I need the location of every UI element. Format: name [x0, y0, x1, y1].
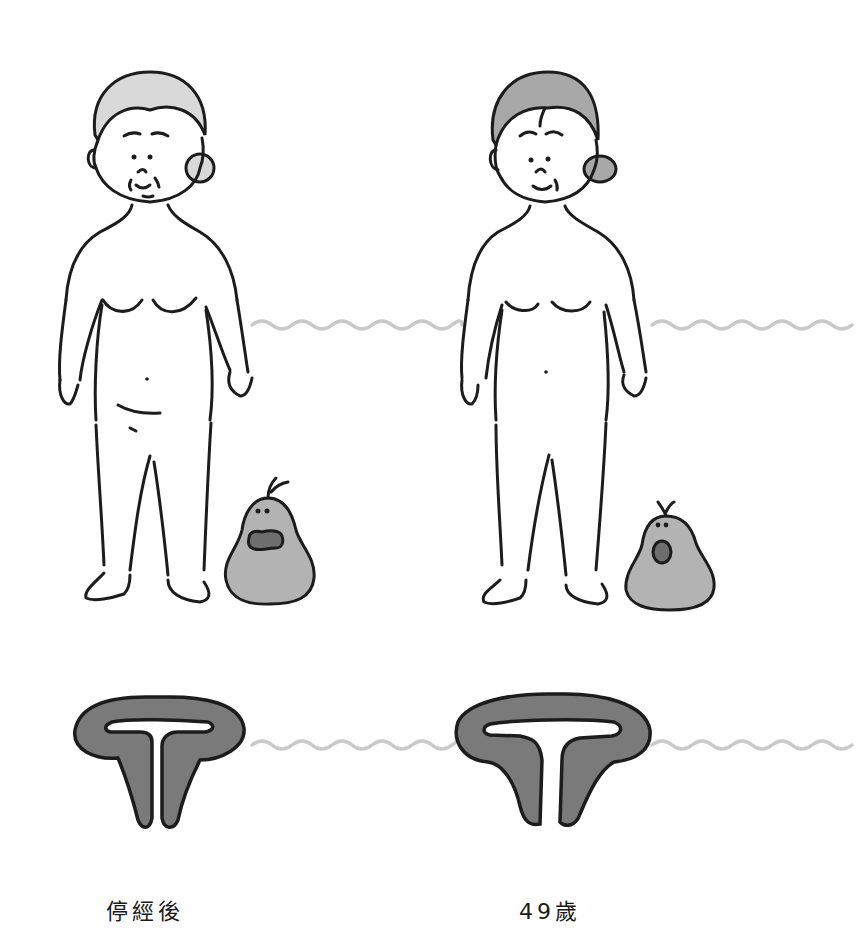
illustration-canvas [0, 0, 862, 930]
uterus-right [456, 694, 650, 825]
figure-right-woman [461, 72, 646, 604]
label-age-49: 49歲 [519, 893, 581, 925]
pear-body-icon [225, 498, 314, 604]
uterus-icon [456, 694, 650, 825]
figure-left-woman [59, 72, 252, 602]
wave-organ-right [652, 741, 852, 749]
wave-organ-middle [252, 741, 462, 749]
pear-character-left [225, 478, 314, 604]
uterus-left [75, 697, 244, 827]
wave-lines [252, 321, 852, 749]
wave-body-middle [252, 321, 462, 329]
wave-body-right [652, 321, 852, 329]
pear-body-icon [626, 516, 714, 610]
label-post-menopause: 停經後 [106, 893, 184, 925]
pear-character-right [626, 502, 714, 610]
uterus-icon [75, 697, 244, 827]
pear-mouth-icon [653, 541, 671, 563]
hair-icon [94, 72, 205, 140]
pear-mouth-icon [248, 531, 282, 550]
